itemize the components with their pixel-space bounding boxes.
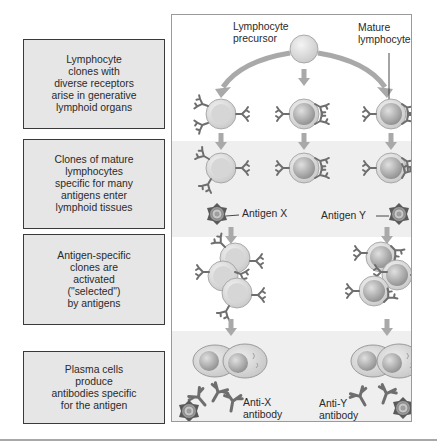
precursor-cell — [290, 35, 318, 63]
bottom-divider — [0, 439, 437, 441]
step-box-selection: Antigen-specific clones are activated ("… — [23, 234, 165, 325]
diagram-panel: Lymphocyte precursor Mature lymphocyte A… — [171, 14, 412, 422]
label-anti-x-antibody: Anti-X antibody — [243, 397, 282, 421]
label-antigen-y: Antigen Y — [321, 210, 366, 222]
step-text: Plasma cells produce antibodies specific… — [52, 364, 137, 412]
step-text: Clones of mature lymphocytes specific fo… — [54, 154, 133, 214]
step-text: Antigen-specific clones are activated ("… — [57, 250, 130, 310]
label-antigen-x: Antigen X — [242, 208, 287, 220]
antigen-x-icon — [207, 203, 227, 225]
label-anti-y-antibody: Anti-Y antibody — [319, 398, 358, 422]
plasma-cells-x — [193, 344, 267, 378]
step-text: Lymphocyte clones with diverse receptors… — [52, 54, 137, 114]
clonal-selection-art — [172, 15, 412, 422]
label-mature-lymphocyte: Mature lymphocyte — [358, 22, 411, 46]
step-box-maturation: Clones of mature lymphocytes specific fo… — [23, 139, 165, 229]
step-box-effector: Plasma cells produce antibodies specific… — [23, 351, 165, 424]
plasma-cells-y — [351, 344, 412, 378]
antigen-y-icon — [389, 203, 409, 225]
step-box-generation: Lymphocyte clones with diverse receptors… — [23, 39, 165, 129]
label-precursor: Lymphocyte precursor — [233, 21, 289, 45]
